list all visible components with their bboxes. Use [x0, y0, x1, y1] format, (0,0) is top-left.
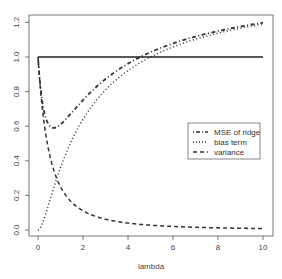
- legend: MSE of ridge bias term variance: [188, 123, 261, 159]
- ridge-mse-chart: 0246810 0.00.20.40.60.81.01.2 lambda MSE…: [0, 0, 282, 279]
- legend-label-bias: bias term: [214, 138, 247, 147]
- y-tick-label: 1.2: [12, 16, 21, 28]
- y-tick-label: 0.6: [12, 120, 21, 132]
- legend-label-variance: variance: [214, 148, 245, 157]
- y-tick-label: 0.8: [12, 85, 21, 97]
- y-tick-label: 0.0: [12, 224, 21, 236]
- y-tick-label: 0.2: [12, 189, 21, 201]
- x-tick-label: 6: [171, 243, 176, 252]
- x-axis: 0246810: [36, 236, 268, 252]
- x-tick-label: 4: [126, 243, 131, 252]
- y-axis: 0.00.20.40.60.81.01.2: [12, 16, 29, 235]
- x-axis-title: lambda: [138, 262, 165, 271]
- x-tick-label: 10: [259, 243, 268, 252]
- y-tick-label: 1.0: [12, 51, 21, 63]
- curve-mse-of-ridge: [38, 23, 263, 128]
- x-tick-label: 0: [36, 243, 41, 252]
- y-tick-label: 0.4: [12, 155, 21, 167]
- x-tick-label: 8: [216, 243, 221, 252]
- x-tick-label: 2: [81, 243, 86, 252]
- legend-label-mse: MSE of ridge: [214, 128, 261, 137]
